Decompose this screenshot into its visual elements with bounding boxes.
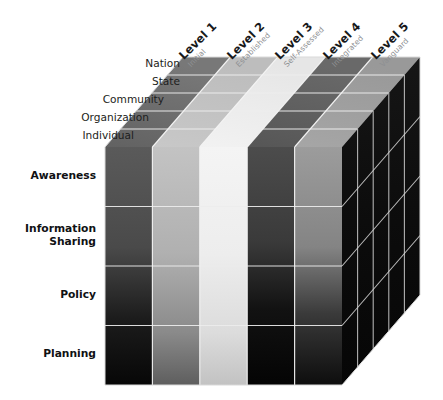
depth-label-organization: Organization xyxy=(0,112,149,123)
depth-label-state: State xyxy=(30,76,180,87)
depth-label-individual: Individual xyxy=(0,130,134,141)
depth-label-community: Community xyxy=(14,94,164,105)
row-label-policy: Policy xyxy=(0,289,96,302)
row-label-information-sharing: Information Sharing xyxy=(0,223,96,248)
depth-label-nation: Nation xyxy=(30,58,180,69)
cube-diagram: Level 1 Initial Level 2 Established Leve… xyxy=(0,0,443,400)
row-label-planning: Planning xyxy=(0,348,96,361)
cube-front-face xyxy=(105,147,342,385)
row-label-awareness: Awareness xyxy=(0,170,96,183)
